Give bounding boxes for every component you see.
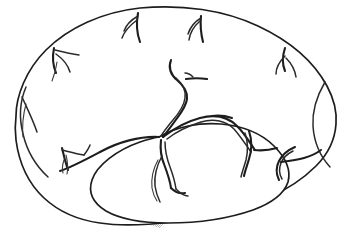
brain-diagram: [0, 0, 344, 245]
vessel-central-sulcus-tick: [186, 78, 207, 79]
brain-figure: Lateral view of cerebral hemisphere with…: [0, 0, 344, 245]
